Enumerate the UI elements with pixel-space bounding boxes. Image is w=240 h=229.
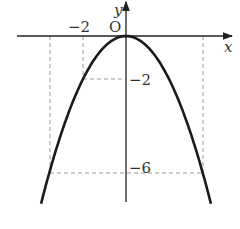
x-tick-neg2: −2 <box>68 18 90 36</box>
y-tick-neg6: −6 <box>129 159 151 177</box>
origin-label: O <box>109 18 121 36</box>
graph-canvas: y x O −2 −2 −6 <box>0 0 240 229</box>
y-axis-label: y <box>113 1 123 19</box>
x-axis-label: x <box>224 38 233 56</box>
y-tick-neg2: −2 <box>129 71 151 89</box>
parabola-graph: y x O −2 −2 −6 <box>0 0 240 229</box>
